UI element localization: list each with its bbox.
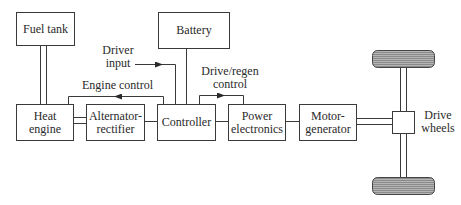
differential-box (393, 112, 415, 134)
alternator-label-2: rectifier (97, 123, 135, 136)
drive-wheels-line-2: wheels (418, 122, 458, 135)
controller-block: Controller (157, 104, 216, 141)
drive-wheels-label: Drive wheels (418, 109, 458, 135)
heat-engine-block: Heat engine (16, 104, 74, 141)
fuel-tank-block: Fuel tank (16, 12, 75, 46)
power-label-2: electronics (231, 123, 283, 136)
controller-label: Controller (162, 116, 211, 129)
hybrid-drivetrain-diagram: Fuel tank Battery Heat engine Alternator… (0, 0, 461, 205)
alternator-label-1: Alternator- (89, 110, 142, 123)
motor-label-2: generator (305, 123, 350, 136)
drive-regen-label: Drive/regen control (196, 65, 264, 91)
motor-label-1: Motor- (311, 110, 345, 123)
driver-input-line-2: input (98, 57, 138, 70)
top-wheel-icon (373, 51, 435, 68)
heat-engine-label-2: engine (29, 123, 61, 136)
motor-generator-block: Motor- generator (299, 104, 357, 141)
battery-block: Battery (158, 12, 230, 49)
power-electronics-block: Power electronics (228, 104, 286, 141)
drive-regen-line-2: control (196, 78, 264, 91)
driver-input-label: Driver input (98, 44, 138, 70)
battery-label: Battery (176, 24, 211, 37)
power-label-1: Power (242, 110, 273, 123)
bottom-wheel-icon (373, 178, 435, 195)
fuel-tank-label: Fuel tank (23, 23, 68, 36)
alternator-rectifier-block: Alternator- rectifier (86, 104, 145, 141)
engine-control-label: Engine control (82, 79, 152, 92)
heat-engine-label-1: Heat (34, 110, 57, 123)
